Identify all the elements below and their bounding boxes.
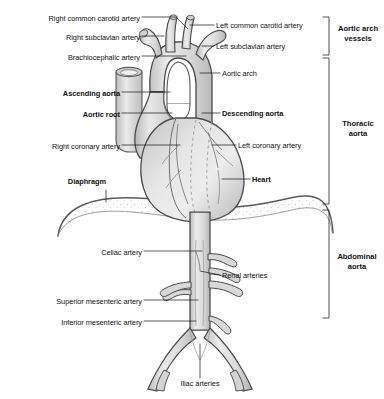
label-left-coronary-artery: Left coronary artery bbox=[238, 141, 301, 150]
label-ascending-aorta: Ascending aorta bbox=[4, 89, 120, 98]
label-right-common-carotid-artery: Right common carotid artery bbox=[4, 14, 140, 23]
aorta-anatomy-diagram: Right common carotid artery Right subcla… bbox=[0, 0, 384, 399]
label-superior-mesenteric-artery: Superior mesenteric artery bbox=[20, 297, 142, 306]
label-right-subclavian-artery: Right subclavian artery bbox=[4, 33, 140, 42]
bracket-label-abdominal-aorta: Abdominal aorta bbox=[330, 252, 384, 272]
label-celiac-artery: Celiac artery bbox=[40, 248, 142, 257]
label-iliac-arteries: Iliac arteries bbox=[155, 379, 245, 388]
bracket-thoracic-aorta-line2: aorta bbox=[349, 129, 368, 138]
label-heart: Heart bbox=[252, 175, 271, 184]
bracket-label-aortic-arch-vessels: Aortic arch vessels bbox=[332, 24, 384, 44]
region-brackets bbox=[323, 17, 329, 318]
bracket-abdominal-aorta-line1: Abdominal bbox=[337, 252, 376, 261]
label-left-subclavian-artery: Left subclavian artery bbox=[216, 42, 285, 51]
label-aortic-root: Aortic root bbox=[4, 110, 120, 119]
label-left-common-carotid-artery: Left common carotid artery bbox=[216, 21, 303, 30]
heart-shape bbox=[141, 118, 244, 222]
bracket-thoracic-aorta-line1: Thoracic bbox=[342, 119, 374, 128]
label-inferior-mesenteric-artery: Inferior mesenteric artery bbox=[20, 318, 142, 327]
label-descending-aorta: Descending aorta bbox=[222, 109, 283, 118]
label-brachiocephalic-artery: Brachiocephalic artery bbox=[4, 53, 140, 62]
bracket-abdominal-aorta-line2: aorta bbox=[348, 262, 367, 271]
label-renal-arteries: Renal arteries bbox=[222, 271, 267, 280]
bracket-aortic-arch-vessels-line2: vessels bbox=[344, 34, 371, 43]
bracket-aortic-arch-vessels-line1: Aortic arch bbox=[338, 24, 378, 33]
label-diaphragm: Diaphragm bbox=[4, 177, 106, 186]
bracket-label-thoracic-aorta: Thoracic aorta bbox=[332, 119, 384, 139]
label-aortic-arch: Aortic arch bbox=[222, 69, 257, 78]
label-right-coronary-artery: Right coronary artery bbox=[4, 142, 120, 151]
